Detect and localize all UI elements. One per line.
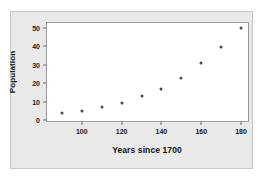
data-point <box>180 76 183 79</box>
data-point <box>200 61 203 64</box>
y-tick-mark <box>43 120 46 121</box>
data-point <box>60 111 63 114</box>
y-tick-label: 30 <box>32 61 40 68</box>
x-tick-mark <box>201 122 202 125</box>
x-axis-title: Years since 1700 <box>112 145 182 155</box>
y-tick-mark <box>43 83 46 84</box>
y-tick-label: 50 <box>32 24 40 31</box>
x-tick-mark <box>161 122 162 125</box>
data-point <box>120 101 123 104</box>
y-tick-label: 0 <box>36 117 40 124</box>
y-tick-mark <box>43 27 46 28</box>
data-point <box>100 105 103 108</box>
x-tick-label: 180 <box>235 128 247 135</box>
data-point <box>240 26 243 29</box>
x-tick-label: 160 <box>195 128 207 135</box>
x-tick-label: 120 <box>116 128 128 135</box>
x-tick-mark <box>81 122 82 125</box>
y-tick-mark <box>43 64 46 65</box>
data-point <box>80 109 83 112</box>
x-tick-label: 100 <box>76 128 88 135</box>
y-tick-mark <box>43 101 46 102</box>
x-tick-mark <box>241 122 242 125</box>
y-axis-title: Population <box>8 51 17 93</box>
y-tick-label: 10 <box>32 98 40 105</box>
plot-area <box>46 22 249 122</box>
chart-figure: 01020304050 100120140160180 Population Y… <box>0 0 263 180</box>
data-point <box>160 87 163 90</box>
x-tick-label: 140 <box>156 128 168 135</box>
y-tick-mark <box>43 46 46 47</box>
y-tick-label: 20 <box>32 80 40 87</box>
y-tick-label: 40 <box>32 43 40 50</box>
x-tick-mark <box>121 122 122 125</box>
data-point <box>140 95 143 98</box>
data-point <box>220 46 223 49</box>
